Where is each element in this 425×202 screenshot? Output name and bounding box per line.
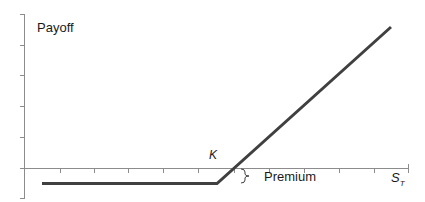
x-axis-label: ST xyxy=(391,170,405,188)
y-axis xyxy=(20,14,25,199)
premium-label: Premium xyxy=(264,169,316,184)
y-axis-label: Payoff xyxy=(37,20,74,35)
x-axis-label-main: S xyxy=(391,170,400,185)
x-axis-label-sub: T xyxy=(400,179,405,188)
x-axis xyxy=(24,164,409,173)
strike-label: K xyxy=(209,148,217,162)
premium-brace xyxy=(241,169,249,183)
